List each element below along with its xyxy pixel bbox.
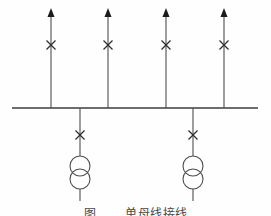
transformer-primary-winding-icon-2 xyxy=(183,156,203,176)
feeder-arrowhead-icon-3 xyxy=(163,8,170,17)
figure-caption-prefix: 图 xyxy=(84,207,96,216)
transformer-secondary-winding-icon-1 xyxy=(70,169,90,189)
single-busbar-diagram: 图 单母线接线 xyxy=(0,0,271,216)
transformer-primary-winding-icon-1 xyxy=(70,156,90,176)
diagram-drawing xyxy=(0,0,271,216)
feeder-arrowhead-icon-1 xyxy=(48,8,55,17)
figure-caption: 图 单母线接线 xyxy=(0,207,271,216)
transformer-secondary-winding-icon-2 xyxy=(183,169,203,189)
feeder-arrowhead-icon-4 xyxy=(221,8,228,17)
figure-caption-title: 单母线接线 xyxy=(125,207,188,216)
feeder-arrowhead-icon-2 xyxy=(105,8,112,17)
